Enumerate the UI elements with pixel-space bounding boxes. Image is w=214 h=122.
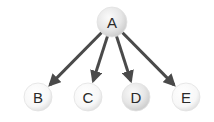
node-c: C bbox=[74, 83, 102, 111]
node-b: B bbox=[24, 83, 52, 111]
node-label: E bbox=[181, 89, 191, 106]
nodes-group: ABCDE bbox=[24, 7, 200, 111]
edges-group bbox=[50, 32, 174, 85]
node-label: A bbox=[107, 14, 117, 31]
edge-a-d bbox=[116, 35, 131, 80]
node-label: D bbox=[131, 89, 142, 106]
node-label: C bbox=[83, 89, 94, 106]
node-d: D bbox=[122, 83, 150, 111]
edge-a-c bbox=[93, 35, 108, 80]
diagram-canvas: ABCDE bbox=[0, 0, 214, 122]
tree-diagram: ABCDE bbox=[0, 0, 214, 122]
node-e: E bbox=[172, 83, 200, 111]
node-label: B bbox=[33, 89, 43, 106]
node-a: A bbox=[97, 7, 127, 37]
